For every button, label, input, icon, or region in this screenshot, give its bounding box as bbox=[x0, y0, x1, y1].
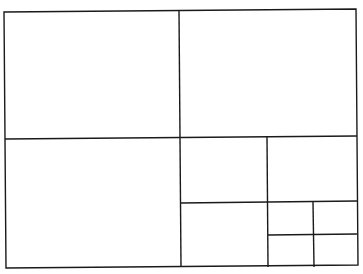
cell-mid-right-b bbox=[268, 137, 357, 202]
cell-top-right bbox=[180, 10, 357, 137]
small-horizontal-line bbox=[268, 234, 357, 235]
cell-bottom-mid bbox=[181, 202, 268, 267]
cell-tiny-bottom-right bbox=[314, 235, 357, 267]
cell-bottom-left bbox=[5, 139, 180, 267]
rectangle-subdivision-diagram bbox=[0, 0, 363, 274]
cell-tiny-bottom-left bbox=[268, 235, 313, 267]
cell-top-left bbox=[5, 11, 180, 138]
cell-tiny-top-right bbox=[314, 202, 357, 235]
cell-mid-right-a bbox=[180, 137, 267, 202]
cell-tiny-top-left bbox=[268, 202, 313, 235]
